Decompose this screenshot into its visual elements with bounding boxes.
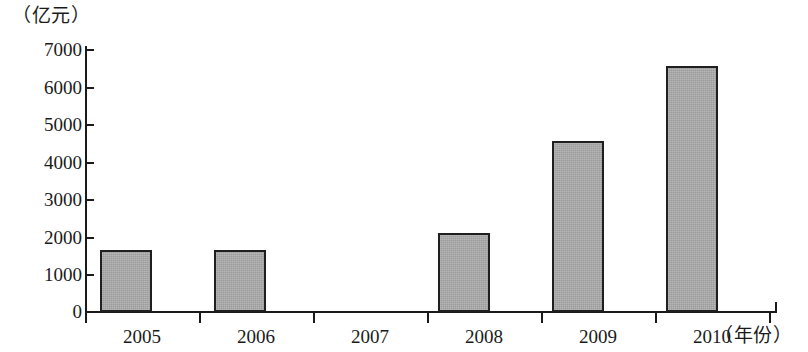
plot-area: 0 1000 2000 3000 4000 5000 6000 7000 (0, 0, 808, 352)
x-tick-label-2007: 2007 (313, 326, 427, 348)
x-tick-label-2009: 2009 (541, 326, 655, 348)
y-tick-label-7000: 7000 (4, 40, 82, 59)
bar-2006 (214, 250, 266, 312)
bar-2008 (438, 233, 490, 312)
y-tick-label-1000: 1000 (4, 265, 82, 284)
bar-2009 (552, 141, 604, 312)
x-axis-end-tick (775, 302, 777, 313)
bar-2010 (666, 66, 718, 312)
bar-chart: （亿元） 0 1000 2000 3000 4000 5000 (0, 0, 808, 352)
x-tick-label-2008: 2008 (427, 326, 541, 348)
y-tick-6000 (87, 87, 94, 89)
bar-2005 (100, 250, 152, 312)
y-tick-2000 (87, 237, 94, 239)
x-tick-label-2005: 2005 (85, 326, 199, 348)
y-tick-1000 (87, 274, 94, 276)
x-tick-boundary-5 (655, 313, 657, 323)
y-tick-5000 (87, 124, 94, 126)
x-tick-boundary-3 (427, 313, 429, 323)
x-tick-boundary-4 (541, 313, 543, 323)
y-tick-label-6000: 6000 (4, 78, 82, 97)
y-tick-7000 (87, 49, 94, 51)
y-tick-4000 (87, 162, 94, 164)
y-tick-label-5000: 5000 (4, 115, 82, 134)
x-tick-label-2006: 2006 (199, 326, 313, 348)
y-tick-label-4000: 4000 (4, 153, 82, 172)
y-tick-label-0: 0 (4, 302, 82, 321)
x-tick-boundary-0 (85, 313, 87, 323)
x-tick-boundary-2 (313, 313, 315, 323)
y-tick-label-3000: 3000 (4, 190, 82, 209)
y-tick-3000 (87, 199, 94, 201)
y-tick-0 (87, 311, 94, 313)
x-tick-boundary-1 (199, 313, 201, 323)
y-tick-label-2000: 2000 (4, 228, 82, 247)
x-axis-title: （年份） (714, 325, 792, 347)
x-tick-boundary-6 (769, 313, 771, 323)
